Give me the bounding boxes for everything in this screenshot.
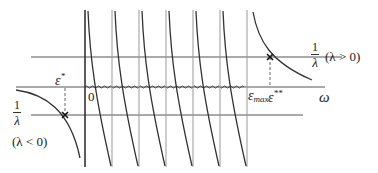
omega-label: ω: [319, 90, 330, 105]
branch-curve-5: [196, 11, 219, 166]
lambda-positive-label: (λ > 0): [325, 50, 360, 63]
branch-curve-3: [142, 11, 165, 166]
lambda-negative-label: (λ < 0): [12, 135, 47, 148]
origin-label: 0: [88, 90, 95, 103]
right-tail-curve: [253, 12, 312, 80]
branch-curve-2: [115, 11, 138, 166]
branch-curve-6: [223, 11, 246, 166]
epsilon-max-label: εmax: [248, 89, 269, 104]
branch-curve-4: [169, 11, 192, 166]
lower-one-over-lambda-label: 1 λ: [13, 99, 21, 127]
upper-one-over-lambda-label: 1 λ: [311, 41, 319, 69]
epsilon-double-star-label: ε**: [268, 89, 283, 105]
epsilon-star-label: ε*: [55, 72, 65, 88]
